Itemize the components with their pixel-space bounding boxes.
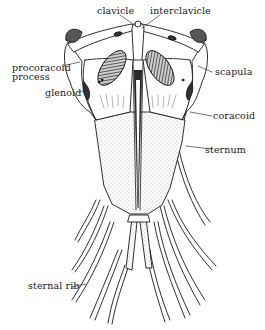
anatomical-diagram: clavicle interclavicle procoracoid proce… <box>0 0 265 330</box>
label-coracoid: coracoid <box>213 111 255 120</box>
label-procoracoid-line2: process <box>12 72 50 81</box>
label-sternum: sternum <box>205 145 246 154</box>
label-sternal-rib: sternal rib <box>28 281 79 290</box>
label-scapula: scapula <box>215 67 252 76</box>
label-interclavicle: interclavicle <box>150 6 211 15</box>
label-clavicle: clavicle <box>97 6 134 15</box>
label-glenoid: glenoid <box>45 88 81 97</box>
ribs-left <box>72 200 129 324</box>
